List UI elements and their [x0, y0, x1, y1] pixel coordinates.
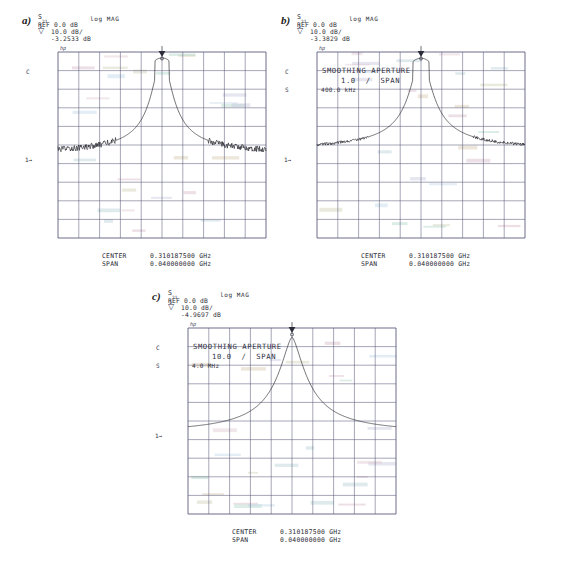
center-frequency-value: 0.310187500 GHz [409, 252, 470, 260]
span-value: 0.040000000 GHz [150, 260, 211, 268]
hp-logo: hp [60, 45, 66, 51]
panel-a: a) S21log MAGREF 0.0 dB10.0 dB/1▽-3.2533… [22, 14, 278, 280]
hp-logo: hp [190, 321, 196, 327]
smoothing-aperture-value: 400.0 kHz [321, 86, 356, 93]
center-frequency-label: CENTER [361, 252, 386, 260]
smoothing-aperture-span: 10.0 / SPAN [212, 352, 276, 361]
format-label: log MAG [90, 15, 120, 23]
marker-arrow-icon: ▽ [168, 303, 174, 311]
span-value: 0.040000000 GHz [280, 536, 341, 544]
panel-c: c) S21log MAGREF 0.0 dB10.0 dB/1▽-4.9697… [152, 290, 408, 556]
smoothing-aperture-label: SMOOTHING APERTURE [193, 342, 282, 351]
panel-b-letter: b) [281, 14, 290, 26]
channel-c-label: C [26, 68, 30, 75]
center-frequency-label: CENTER [232, 528, 257, 536]
span-label: SPAN [102, 260, 118, 268]
channel-c-label: C [156, 344, 160, 351]
smoothing-aperture-value: 4.0 MHz [192, 362, 219, 369]
reference-position-marker: 1→ [155, 432, 162, 439]
center-frequency-value: 0.310187500 GHz [150, 252, 211, 260]
center-frequency-label: CENTER [102, 252, 127, 260]
format-label: log MAG [349, 15, 379, 23]
panel-c-letter: c) [152, 290, 161, 302]
panel-a-plot [36, 14, 278, 254]
panel-c-plot [166, 290, 408, 530]
marker-value: -4.9697 dB [181, 311, 221, 319]
smoothing-aperture-label: SMOOTHING APERTURE [322, 66, 411, 75]
panel-a-letter: a) [22, 14, 31, 26]
channel-s-label: S [156, 362, 160, 369]
span-value: 0.040000000 GHz [409, 260, 470, 268]
marker-value: -3.2533 dB [51, 35, 91, 43]
marker-arrow-icon: ▽ [38, 27, 44, 35]
panel-b: b) S21log MAGREF 0.0 dB10.0 dB/1▽-3.3829… [281, 14, 537, 280]
panel-b-plot [295, 14, 537, 254]
format-label: log MAG [220, 291, 250, 299]
hp-logo: hp [319, 45, 325, 51]
span-label: SPAN [232, 536, 248, 544]
channel-c-label: C [285, 68, 289, 75]
marker-arrow-icon: ▽ [297, 27, 303, 35]
channel-s-label: S [285, 86, 289, 93]
smoothing-aperture-span: 1.0 / SPAN [341, 76, 400, 85]
span-label: SPAN [361, 260, 377, 268]
marker-value: -3.3829 dB [310, 35, 350, 43]
reference-position-marker: 1→ [25, 156, 32, 163]
center-frequency-value: 0.310187500 GHz [280, 528, 341, 536]
reference-position-marker: 1→ [284, 156, 291, 163]
